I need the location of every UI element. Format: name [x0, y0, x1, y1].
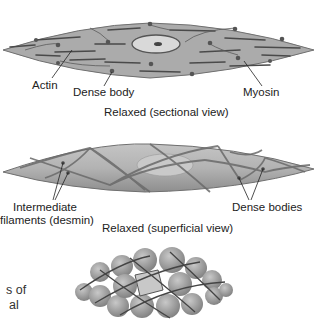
- smooth-muscle-diagram: [0, 0, 316, 323]
- contracted-cell: [75, 247, 233, 318]
- cutoff-text-line2: al: [9, 299, 19, 312]
- actin-label: Actin: [32, 79, 58, 92]
- cutoff-text-line1: s of: [6, 284, 26, 297]
- intermediate-filaments-label-line1: Intermediate: [13, 201, 77, 214]
- dense-body-label: Dense body: [73, 86, 134, 99]
- intermediate-filaments-label-line2: filaments (desmin): [0, 214, 94, 227]
- sectional-cell: [3, 22, 314, 86]
- dense-bodies-label: Dense bodies: [232, 201, 302, 214]
- sectional-view-caption: Relaxed (sectional view): [104, 106, 229, 119]
- superficial-cell: [3, 144, 314, 200]
- superficial-view-caption: Relaxed (superficial view): [102, 222, 233, 235]
- myosin-label: Myosin: [243, 86, 279, 99]
